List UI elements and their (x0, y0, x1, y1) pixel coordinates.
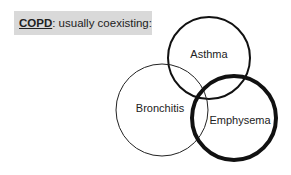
emphysema-label: Emphysema (209, 114, 271, 126)
bronchitis-label: Bronchitis (136, 102, 185, 114)
venn-diagram: Asthma Bronchitis Emphysema (0, 0, 291, 175)
asthma-label: Asthma (190, 48, 228, 60)
